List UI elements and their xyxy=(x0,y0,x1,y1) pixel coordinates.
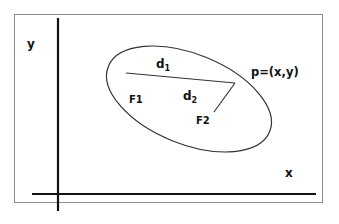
d1-label: d1 xyxy=(156,57,171,73)
d2-label: d2 xyxy=(183,89,197,105)
d2-line xyxy=(214,83,235,112)
y-axis-label: y xyxy=(27,37,35,51)
x-axis-label: x xyxy=(285,166,293,180)
focus-f2-label: F2 xyxy=(196,115,210,126)
focus-f1-label: F1 xyxy=(129,94,143,105)
point-p-label: p=(x,y) xyxy=(251,65,299,79)
d1-line xyxy=(126,73,235,83)
diagram-frame xyxy=(15,15,323,203)
ellipse-diagram: y x d1 d2 F1 F2 p=(x,y) xyxy=(0,0,339,224)
